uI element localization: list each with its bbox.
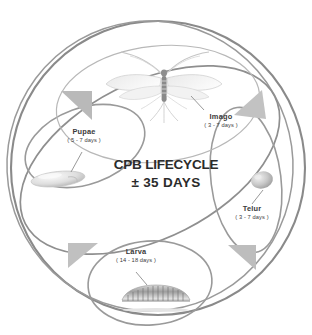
page-title: CPB LIFECYCLE ± 35 DAYS: [106, 157, 226, 190]
stage-label-larva-duration: ( 14 - 18 days ): [98, 257, 174, 264]
stage-label-imago-name: Imago: [185, 113, 257, 122]
stage-label-telur: Telur ( 3 - 7 days ): [216, 205, 288, 221]
stage-label-pupae: Pupae ( 5 - 7 days ): [48, 128, 120, 144]
stage-label-pupae-duration: ( 5 - 7 days ): [48, 137, 120, 144]
leader-line-telur: [252, 190, 263, 204]
stage-label-larva: Larva ( 14 - 18 days ): [98, 248, 174, 264]
leader-line-larva: [136, 272, 147, 285]
leader-line-pupae: [71, 152, 82, 172]
stage-label-telur-name: Telur: [216, 205, 288, 214]
stage-label-imago-duration: ( 3 - 7 days ): [185, 122, 257, 129]
stage-label-larva-name: Larva: [98, 248, 174, 257]
stage-label-pupae-name: Pupae: [48, 128, 120, 137]
arrow-bottom-right-icon: [228, 245, 256, 270]
stage-label-telur-duration: ( 3 - 7 days ): [216, 214, 288, 221]
title-sub-text: ± 35 DAYS: [106, 175, 226, 190]
arrow-top-left-icon: [61, 91, 92, 120]
stage-label-imago: Imago ( 3 - 7 days ): [185, 113, 257, 129]
title-main-text: CPB LIFECYCLE: [106, 157, 226, 172]
telur-illustration: [249, 169, 274, 190]
cpb-lifecycle-diagram: CPB LIFECYCLE ± 35 DAYS Pupae ( 5 - 7 da…: [0, 0, 312, 335]
arrow-bottom-left-icon: [68, 243, 98, 268]
